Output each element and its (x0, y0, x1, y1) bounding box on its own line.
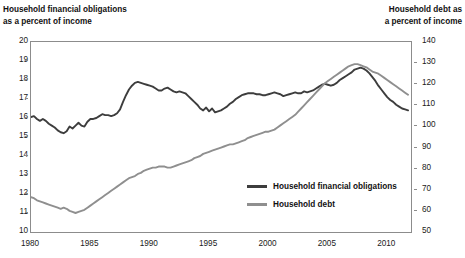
x-axis: 1980198519901995200020052010 (30, 234, 412, 254)
legend-item-debt: Household debt (247, 199, 407, 210)
right-axis-tick-label: 70 (422, 184, 448, 193)
x-axis-tick-label: 1985 (69, 239, 109, 248)
right-axis-tick-mark (414, 62, 417, 63)
left-axis-tick-mark (25, 155, 28, 156)
left-axis-tick-label: 10 (4, 226, 28, 235)
right-axis-tick-mark (414, 210, 417, 211)
right-axis-tick-mark (414, 189, 417, 190)
x-axis-tick-label: 1980 (10, 239, 50, 248)
left-axis-tick-label: 20 (4, 36, 28, 45)
legend-label-obligations: Household financial obligations (273, 182, 397, 191)
right-axis-tick-label: 60 (422, 205, 448, 214)
left-axis-tick-mark (25, 117, 28, 118)
left-axis-tick-mark (25, 212, 28, 213)
left-axis-tick-mark (25, 174, 28, 175)
x-axis-tick-label: 2010 (366, 239, 406, 248)
left-axis-title: Household financial obligations as a per… (3, 4, 127, 27)
x-axis-tick-label: 2005 (307, 239, 347, 248)
x-axis-tick-label: 1995 (188, 239, 228, 248)
right-axis-tick-label: 100 (422, 120, 448, 129)
line-household-financial-obligations (31, 68, 408, 134)
legend: Household financial obligations Househol… (247, 181, 407, 217)
x-axis-tick-label: 1990 (129, 239, 169, 248)
right-axis-tick-label: 120 (422, 78, 448, 87)
x-axis-tick-label: 2000 (248, 239, 288, 248)
left-axis-tick-mark (25, 79, 28, 80)
right-axis-tick-label: 50 (422, 226, 448, 235)
right-axis-tick-mark (414, 168, 417, 169)
right-axis-tick-mark (414, 83, 417, 84)
left-axis-tick-mark (25, 98, 28, 99)
left-axis-tick-mark (25, 136, 28, 137)
legend-item-obligations: Household financial obligations (247, 181, 407, 192)
right-axis-tick-mark (414, 104, 417, 105)
right-axis-tick-label: 110 (422, 99, 448, 108)
left-axis-tick-mark (25, 60, 28, 61)
right-axis-tick-label: 80 (422, 163, 448, 172)
legend-swatch-obligations (247, 185, 267, 188)
left-axis: 2019181716151413121110 (0, 41, 28, 233)
right-axis-tick-mark (414, 125, 417, 126)
right-axis: 1401301201101009080706050 (414, 41, 442, 233)
right-axis-tick-mark (414, 147, 417, 148)
left-axis-tick-mark (25, 193, 28, 194)
chart-container: Household financial obligations as a per… (0, 0, 465, 258)
right-axis-title: Household debt as a percent of income (385, 4, 462, 27)
legend-label-debt: Household debt (273, 200, 335, 209)
legend-swatch-debt (247, 203, 267, 206)
right-axis-tick-label: 140 (422, 36, 448, 45)
right-axis-tick-label: 90 (422, 142, 448, 151)
right-axis-tick-label: 130 (422, 57, 448, 66)
